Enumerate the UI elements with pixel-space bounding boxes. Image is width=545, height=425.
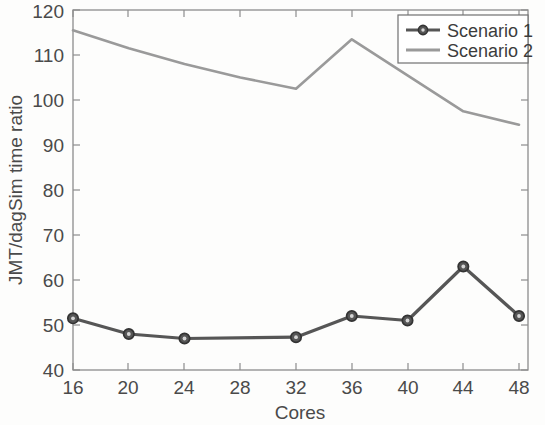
- data-point-marker-center: [294, 335, 298, 339]
- series-line-1: [73, 267, 519, 339]
- legend-label-scenario-2: Scenario 2: [447, 41, 533, 61]
- data-point-marker-center: [71, 316, 75, 320]
- y-tick-label-90: 90: [43, 135, 64, 156]
- legend: Scenario 1 Scenario 2: [398, 15, 533, 63]
- plot-frame: [73, 10, 528, 370]
- x-tick-label-24: 24: [173, 377, 195, 398]
- y-tick-label-60: 60: [43, 270, 64, 291]
- data-point-marker-center: [461, 265, 465, 269]
- legend-marker-inner-scenario-1: [421, 28, 424, 31]
- x-tick-label-48: 48: [508, 377, 529, 398]
- y-tick-label-110: 110: [34, 45, 64, 66]
- x-tick-label-32: 32: [285, 377, 306, 398]
- x-tick-label-36: 36: [341, 377, 362, 398]
- y-axis-ticks: [73, 10, 528, 370]
- y-tick-label-70: 70: [43, 225, 64, 246]
- x-tick-label-16: 16: [62, 377, 83, 398]
- x-tick-label-28: 28: [229, 377, 250, 398]
- data-series-layer: [68, 30, 524, 343]
- chart-figure: 40 50 60 70 80 90 100 110 120 16 20 24 2…: [0, 0, 545, 425]
- y-tick-label-50: 50: [43, 315, 64, 336]
- y-tick-label-100: 100: [32, 90, 64, 111]
- x-tick-label-20: 20: [117, 377, 138, 398]
- y-tick-label-80: 80: [43, 180, 64, 201]
- x-axis-title: Cores: [275, 402, 326, 423]
- data-point-marker-center: [127, 332, 131, 336]
- line-chart: 40 50 60 70 80 90 100 110 120 16 20 24 2…: [0, 0, 545, 425]
- x-axis-ticks: [73, 10, 519, 370]
- x-tick-label-40: 40: [397, 377, 418, 398]
- series-1: [68, 261, 524, 343]
- data-point-marker-center: [350, 314, 354, 318]
- data-point-marker-center: [517, 314, 521, 318]
- x-tick-label-44: 44: [452, 377, 474, 398]
- y-axis-title: JMT/dagSim time ratio: [5, 95, 26, 285]
- legend-label-scenario-1: Scenario 1: [447, 21, 533, 41]
- data-point-marker-center: [406, 319, 410, 323]
- data-point-marker-center: [183, 337, 187, 341]
- y-tick-label-120: 120: [32, 1, 64, 22]
- y-tick-label-40: 40: [43, 360, 64, 381]
